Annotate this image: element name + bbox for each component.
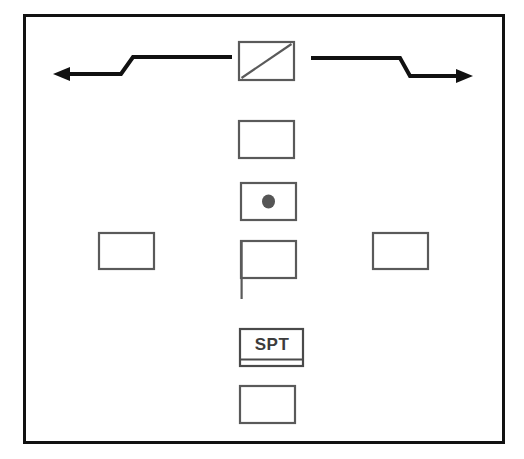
left-box bbox=[99, 233, 154, 269]
dot-box bbox=[241, 183, 296, 220]
right-box bbox=[373, 233, 428, 269]
diagram-canvas: SPT bbox=[0, 0, 524, 459]
left-zigzag-arrow bbox=[53, 57, 232, 81]
right-zigzag-arrow bbox=[311, 58, 473, 83]
flag-box bbox=[241, 241, 296, 299]
second-box bbox=[239, 121, 294, 158]
top-diagonal-box bbox=[239, 42, 294, 80]
left-arrowhead bbox=[53, 67, 70, 81]
spt-box-label: SPT bbox=[241, 330, 303, 358]
bottom-box bbox=[240, 386, 295, 423]
filled-dot-icon bbox=[262, 195, 275, 209]
diagram-svg bbox=[0, 0, 524, 459]
right-arrowhead bbox=[456, 69, 473, 83]
